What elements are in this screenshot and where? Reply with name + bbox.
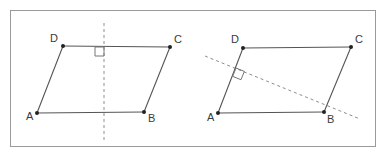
vertex-label-d: D	[231, 33, 239, 45]
vertex-label-c: C	[355, 33, 363, 45]
edge-ab	[218, 112, 324, 113]
vertex-dot-c	[349, 45, 353, 49]
vertex-dot-c	[168, 45, 172, 49]
outer-border	[11, 11, 376, 147]
parallelogram-abcd-right: ABCD	[205, 33, 363, 125]
geometry-diagram: ABCDABCD	[0, 0, 388, 160]
edge-bc	[144, 47, 170, 112]
vertex-label-a: A	[207, 111, 215, 123]
vertex-label-a: A	[26, 110, 34, 122]
edge-cd	[63, 46, 170, 47]
vertex-label-d: D	[50, 32, 58, 44]
vertex-dot-b	[142, 110, 146, 114]
vertex-dot-d	[61, 44, 65, 48]
edge-cd	[243, 47, 351, 48]
vertex-label-b: B	[148, 112, 155, 124]
figure-root: ABCDABCD	[0, 0, 388, 160]
vertex-label-b: B	[327, 113, 334, 125]
vertex-label-c: C	[174, 33, 182, 45]
edge-bc	[324, 47, 351, 112]
vertex-dot-a	[35, 111, 39, 115]
vertex-dot-d	[241, 46, 245, 50]
right-angle-marker	[95, 47, 104, 56]
vertex-dot-a	[216, 111, 220, 115]
parallelogram-abcd-left: ABCD	[26, 23, 182, 141]
vertex-dot-b	[322, 110, 326, 114]
edge-ab	[37, 112, 144, 113]
edge-da	[218, 48, 243, 113]
edge-da	[37, 46, 63, 113]
